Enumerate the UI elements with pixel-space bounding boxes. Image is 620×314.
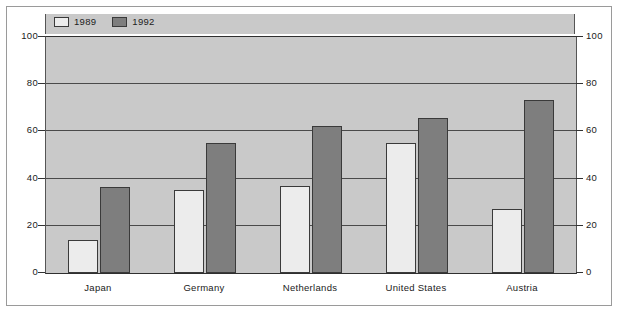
y-tick-right-100: 100 [586,31,603,41]
x-label-netherlands: Netherlands [257,282,363,293]
bar-group [152,37,258,273]
bar-group [470,37,576,273]
x-axis-labels: JapanGermanyNetherlandsUnited StatesAust… [45,282,575,298]
bars-layer [46,37,576,273]
tickmark-right-100 [576,36,583,37]
tickmark-left-40 [38,178,45,179]
y-tick-right-40: 40 [586,173,597,183]
light-swatch-icon [54,17,69,27]
tickmark-right-60 [576,130,583,131]
bar-group [364,37,470,273]
bar-chart-figure: 1989 1992 100806040200 100806040200 Japa… [0,0,620,314]
bar-united-states-1989[interactable] [386,143,416,273]
x-label-austria: Austria [469,282,575,293]
tickmark-left-20 [38,225,45,226]
tickmark-right-80 [576,83,583,84]
x-label-germany: Germany [151,282,257,293]
bar-austria-1989[interactable] [492,209,522,273]
bar-austria-1992[interactable] [524,100,554,273]
x-label-united-states: United States [363,282,469,293]
x-label-japan: Japan [45,282,151,293]
bar-group [258,37,364,273]
tickmark-left-100 [38,36,45,37]
tickmark-right-20 [576,225,583,226]
legend-entry-1992[interactable]: 1992 [112,17,154,27]
plot-area [45,36,577,274]
y-tick-right-60: 60 [586,125,597,135]
y-tick-right-20: 20 [586,220,597,230]
legend-entry-1989[interactable]: 1989 [54,17,96,27]
legend-label-1992: 1992 [132,17,154,27]
tickmark-right-0 [576,272,583,273]
tickmark-left-80 [38,83,45,84]
y-tick-left-100: 100 [21,31,38,41]
bar-germany-1989[interactable] [174,190,204,273]
bar-group [46,37,152,273]
bar-japan-1989[interactable] [68,240,98,273]
tickmark-right-40 [576,178,583,179]
dark-swatch-icon [112,17,127,27]
y-tick-left-40: 40 [27,173,38,183]
bar-netherlands-1992[interactable] [312,126,342,274]
chart-legend: 1989 1992 [45,14,575,34]
bar-germany-1992[interactable] [206,143,236,273]
tickmark-left-60 [38,130,45,131]
y-tick-right-80: 80 [586,78,597,88]
bar-united-states-1992[interactable] [418,118,448,273]
bar-japan-1992[interactable] [100,187,130,273]
y-tick-left-20: 20 [27,220,38,230]
legend-label-1989: 1989 [74,17,96,27]
bar-netherlands-1989[interactable] [280,186,310,273]
tickmark-left-0 [38,272,45,273]
y-tick-left-60: 60 [27,125,38,135]
y-tick-right-0: 0 [586,267,592,277]
y-tick-left-80: 80 [27,78,38,88]
